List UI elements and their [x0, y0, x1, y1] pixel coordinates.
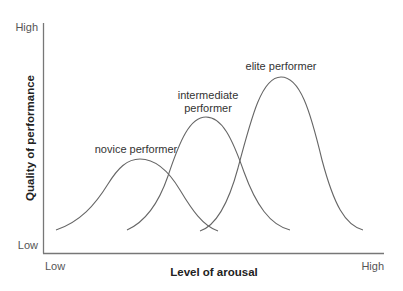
x-tick-low: Low	[45, 260, 65, 272]
arousal-performance-chart: High Low Low High Level of arousal Quali…	[0, 0, 403, 291]
y-tick-low: Low	[18, 239, 38, 251]
novice-performer-curve	[56, 159, 218, 231]
y-axis-title: Quality of performance	[24, 75, 36, 201]
intermediate-performer-label-line2: performer	[184, 102, 232, 114]
elite-performer-label: elite performer	[246, 60, 317, 72]
x-axis-title: Level of arousal	[170, 266, 258, 278]
y-tick-high: High	[15, 21, 38, 33]
novice-performer-label: novice performer	[95, 143, 178, 155]
intermediate-performer-label-line1: intermediate	[178, 89, 239, 101]
intermediate-performer-curve	[127, 117, 290, 230]
x-tick-high: High	[361, 260, 384, 272]
